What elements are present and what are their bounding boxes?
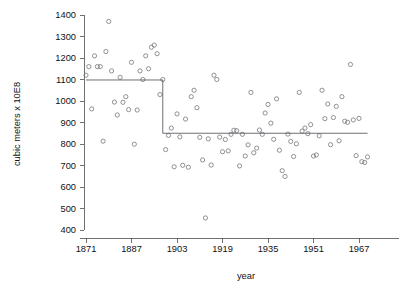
data-point [255, 146, 259, 150]
data-points [84, 19, 370, 220]
y-axis-title: cubic meters x 10E8 [12, 82, 22, 166]
y-tick-label: 1200 [55, 53, 76, 63]
data-point [124, 95, 128, 99]
y-axis: 40050060070080090010001100120013001400 [55, 10, 84, 235]
data-point [135, 108, 139, 112]
data-point [121, 100, 125, 104]
data-point [226, 149, 230, 153]
data-point [112, 100, 116, 104]
data-point [363, 160, 367, 164]
data-point [152, 43, 156, 47]
data-point [354, 154, 358, 158]
data-point [101, 139, 105, 143]
data-point [178, 135, 182, 139]
data-point [266, 102, 270, 106]
data-point [186, 165, 190, 169]
data-point [158, 92, 162, 96]
data-point [209, 163, 213, 167]
data-point [294, 142, 298, 146]
data-point [326, 102, 330, 106]
data-point [118, 75, 122, 79]
data-point [138, 69, 142, 73]
y-tick-label: 600 [60, 182, 76, 192]
data-point [181, 163, 185, 167]
data-point [357, 116, 361, 120]
data-point [212, 73, 216, 77]
data-point [331, 115, 335, 119]
x-tick-label: 1903 [167, 244, 188, 254]
data-point [132, 142, 136, 146]
data-point [303, 126, 307, 130]
y-tick-label: 1100 [56, 75, 76, 85]
data-point [107, 19, 111, 23]
data-point [149, 45, 153, 49]
data-point [337, 139, 341, 143]
x-axis-title: year [237, 271, 255, 281]
data-point [198, 135, 202, 139]
y-tick-label: 700 [60, 161, 76, 171]
data-point [98, 65, 102, 69]
data-point [183, 117, 187, 121]
data-point [365, 155, 369, 159]
data-point [323, 117, 327, 121]
data-point [328, 143, 332, 147]
data-point [235, 129, 239, 133]
data-point [146, 67, 150, 71]
y-tick-label: 800 [60, 139, 76, 149]
data-point [109, 69, 113, 73]
scatter-chart: 40050060070080090010001100120013001400 1… [0, 0, 417, 289]
y-tick-label: 900 [60, 118, 76, 128]
data-point [263, 111, 267, 115]
data-point [155, 52, 159, 56]
x-tick-label: 1967 [349, 244, 370, 254]
data-point [92, 54, 96, 58]
data-point [141, 77, 145, 81]
data-point [237, 164, 241, 168]
data-point [289, 139, 293, 143]
data-point [351, 118, 355, 122]
data-point [243, 154, 247, 158]
data-point [360, 160, 364, 164]
x-tick-label: 1935 [258, 244, 279, 254]
data-point [192, 88, 196, 92]
data-point [223, 137, 227, 141]
data-point [297, 90, 301, 94]
data-point [90, 107, 94, 111]
data-point [334, 104, 338, 108]
data-point [115, 113, 119, 117]
data-point [272, 137, 276, 141]
data-point [129, 60, 133, 64]
step-fit-line [86, 80, 368, 133]
y-tick-label: 500 [60, 204, 76, 214]
data-point [215, 77, 219, 81]
data-point [144, 54, 148, 58]
data-point [320, 88, 324, 92]
x-tick-label: 1887 [121, 244, 142, 254]
plot-area: 40050060070080090010001100120013001400 1… [0, 0, 417, 289]
data-point [169, 126, 173, 130]
data-point [87, 65, 91, 69]
data-point [175, 112, 179, 116]
data-point [195, 106, 199, 110]
x-axis: 1871188719031919193519511967 [76, 238, 399, 254]
data-point [283, 174, 287, 178]
data-point [249, 90, 253, 94]
data-point [317, 134, 321, 138]
data-point [269, 121, 273, 125]
x-tick-label: 1871 [76, 244, 97, 254]
data-point [172, 165, 176, 169]
data-point [200, 158, 204, 162]
data-point [84, 73, 88, 77]
data-point [203, 216, 207, 220]
y-tick-label: 1400 [55, 10, 76, 20]
data-point [257, 128, 261, 132]
data-point [206, 137, 210, 141]
data-point [220, 150, 224, 154]
x-tick-label: 1951 [303, 244, 324, 254]
data-point [189, 95, 193, 99]
data-point [291, 154, 295, 158]
data-point [166, 133, 170, 137]
data-point [277, 148, 281, 152]
data-point [104, 49, 108, 53]
data-point [348, 62, 352, 66]
